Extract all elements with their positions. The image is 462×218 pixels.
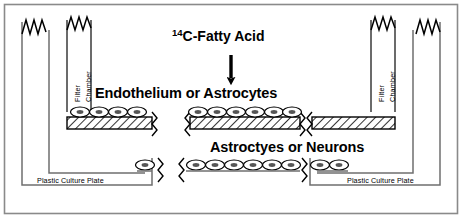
hatched-filter-membrane-middle [190,117,300,129]
upper-cell-layer-label: Endothelium or Astrocytes [95,86,277,101]
hatched-filter-membrane-right [312,117,395,129]
zigzag-break-mark [185,112,190,136]
zigzag-break-mark [22,20,46,34]
filter-chamber-right-label-line2: Chamber [389,71,396,102]
zigzag-break-mark [300,112,305,136]
lower-cell-layer-label: Astroctyes or Neurons [210,140,364,155]
cell-monolayer-lower-middle [187,160,301,170]
filter-chamber-left-label-line1: Filter [74,85,81,102]
tracer-label-text: C-Fatty Acid [183,28,265,44]
cell-monolayer-upper-middle [189,107,302,117]
zigzag-break-mark [307,112,312,136]
plate-label-right: Plastic Culture Plate [347,177,414,184]
tracer-label: 14C-Fatty Acid [172,28,265,43]
cell-monolayer-upper-left [71,107,147,117]
cell-monolayer-lower-right [311,160,349,170]
cell-monolayer-lower-left [136,160,155,170]
hatched-filter-membrane-left [67,117,152,129]
filter-chamber-left-label-line2: Chamber [85,71,92,102]
plate-left [22,22,152,185]
zigzag-break-mark [152,112,157,136]
plate-label-left: Plastic Culture Plate [37,177,104,184]
zigzag-break-mark [302,158,307,182]
transwell-coculture-diagram: 14C-Fatty Acid Endothelium or Astrocytes… [0,0,462,218]
zigzag-break-mark [371,17,395,30]
zigzag-break-mark [67,17,91,30]
zigzag-break-mark [416,20,440,34]
zigzag-break-mark [179,158,184,182]
filter-chamber-right-label-line1: Filter [378,85,385,102]
zigzag-break-mark [158,158,163,182]
plate-right [310,22,440,185]
tracer-isotope-superscript: 14 [172,27,183,38]
